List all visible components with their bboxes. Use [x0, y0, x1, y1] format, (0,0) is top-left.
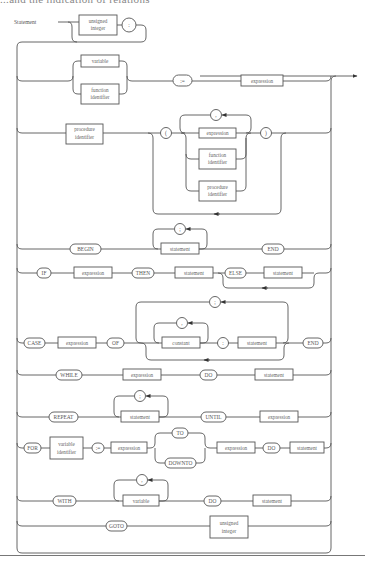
svg-text:unsigned: unsigned: [89, 18, 108, 24]
svg-text:variable: variable: [133, 498, 150, 504]
svg-text::=: :=: [180, 78, 185, 84]
svg-text:FOR: FOR: [27, 445, 38, 451]
svg-text:OF: OF: [112, 340, 119, 346]
row-compound: BEGIN statement ; END: [17, 224, 331, 255]
svg-text:DOWNTO: DOWNTO: [169, 460, 193, 466]
svg-text:expression: expression: [82, 270, 105, 276]
svg-text:procedure: procedure: [74, 126, 95, 132]
row-case: CASE expression OF ; constant , : statem…: [17, 297, 331, 361]
svg-text:unsigned: unsigned: [220, 520, 239, 526]
svg-text::=: :=: [96, 445, 101, 451]
svg-text:identifier: identifier: [208, 191, 227, 197]
row-with: WITH variable , DO statement: [17, 475, 331, 507]
svg-text:constant: constant: [172, 340, 190, 346]
svg-text:): ): [265, 130, 267, 137]
svg-text:THEN: THEN: [136, 270, 150, 276]
svg-text:function: function: [91, 87, 109, 93]
svg-text:WITH: WITH: [57, 498, 71, 504]
svg-text:procedure: procedure: [207, 184, 228, 190]
statement-title: Statement: [14, 19, 37, 25]
svg-text:variable: variable: [92, 58, 109, 64]
row-procedure-call: procedure identifier ( expression functi…: [17, 110, 331, 215]
row-goto: GOTO unsigned integer: [17, 516, 331, 538]
row-assignment: variable function identifier := expressi…: [17, 55, 331, 104]
svg-text:statement: statement: [273, 270, 293, 276]
svg-text:expression: expression: [251, 78, 274, 84]
svg-text:expression: expression: [131, 372, 154, 378]
svg-text:DO: DO: [205, 372, 213, 378]
row-if: IF expression THEN statement ELSE statem…: [17, 267, 331, 288]
svg-text:statement: statement: [170, 246, 190, 252]
svg-text:identifier: identifier: [208, 159, 227, 165]
svg-text:END: END: [267, 246, 278, 252]
svg-text:expression: expression: [118, 445, 141, 451]
svg-text:UNTIL: UNTIL: [205, 414, 221, 420]
svg-text:DO: DO: [268, 445, 276, 451]
svg-text:ELSE: ELSE: [229, 270, 243, 276]
svg-text:identifier: identifier: [75, 134, 94, 140]
svg-text:GOTO: GOTO: [109, 523, 124, 529]
page-divider: [0, 555, 365, 556]
svg-text:TO: TO: [176, 430, 183, 436]
svg-text:identifier: identifier: [57, 449, 76, 455]
svg-text:DO: DO: [209, 498, 217, 504]
svg-text:statement: statement: [297, 445, 317, 451]
svg-text:statement: statement: [262, 498, 282, 504]
svg-text:END: END: [307, 340, 318, 346]
svg-text:expression: expression: [225, 445, 248, 451]
svg-text:IF: IF: [42, 270, 47, 276]
row-repeat: REPEAT statement ; UNTIL expression: [17, 391, 331, 423]
svg-text:variable: variable: [58, 441, 75, 447]
svg-text:expression: expression: [66, 340, 89, 346]
svg-text:statement: statement: [184, 270, 204, 276]
svg-text:CASE: CASE: [28, 340, 42, 346]
svg-text:function: function: [209, 152, 227, 158]
svg-text:expression: expression: [206, 130, 229, 136]
svg-text:(: (: [165, 130, 167, 137]
svg-text:integer: integer: [222, 528, 237, 534]
svg-text:integer: integer: [91, 25, 106, 31]
svg-text:WHILE: WHILE: [60, 372, 78, 378]
svg-text:REPEAT: REPEAT: [54, 414, 74, 420]
svg-text:BEGIN: BEGIN: [77, 246, 94, 252]
svg-text:statement: statement: [130, 414, 150, 420]
row-label: unsigned integer :: [17, 15, 331, 553]
row-while: WHILE expression DO statement: [17, 369, 331, 380]
svg-text:statement: statement: [264, 372, 284, 378]
row-for: FOR variable identifier := expression TO…: [17, 428, 331, 468]
svg-text:identifier: identifier: [90, 94, 109, 100]
svg-text:expression: expression: [268, 414, 291, 420]
svg-text:statement: statement: [247, 340, 267, 346]
statement-syntax-diagram: Statement unsigned integer : variable fu…: [0, 0, 365, 563]
